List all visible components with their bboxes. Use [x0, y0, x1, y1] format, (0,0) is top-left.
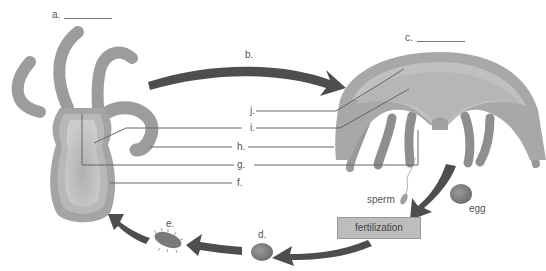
egg-label: egg	[469, 204, 486, 214]
label-d: d.	[258, 230, 266, 240]
label-c: c.	[405, 33, 465, 43]
medusa	[335, 52, 546, 168]
sperm-label: sperm	[367, 195, 395, 205]
arrow-to-d-icon	[272, 240, 372, 266]
label-e: e.	[166, 219, 174, 229]
arrow-to-polyp-icon	[108, 214, 150, 244]
life-cycle-diagram: a. b. c. j. i. h. g. f. d. e. sperm egg …	[0, 0, 546, 271]
answer-blank-c[interactable]	[417, 41, 465, 42]
label-j: j.	[250, 106, 255, 116]
polyp	[18, 32, 152, 222]
fertilization-box: fertilization	[337, 217, 421, 239]
label-f: f.	[237, 178, 243, 188]
egg-icon	[450, 184, 472, 204]
label-i: i.	[250, 123, 255, 133]
answer-blank-a[interactable]	[64, 18, 112, 19]
planula-larva-icon	[152, 228, 183, 253]
label-b: b.	[245, 50, 253, 60]
arrow-b-icon	[148, 67, 346, 96]
label-g: g.	[237, 160, 245, 170]
label-h: h.	[237, 142, 245, 152]
arrow-to-e-icon	[186, 234, 242, 256]
zygote-icon	[251, 243, 273, 261]
arrow-down-icon	[410, 164, 456, 220]
label-a: a.	[52, 10, 112, 20]
